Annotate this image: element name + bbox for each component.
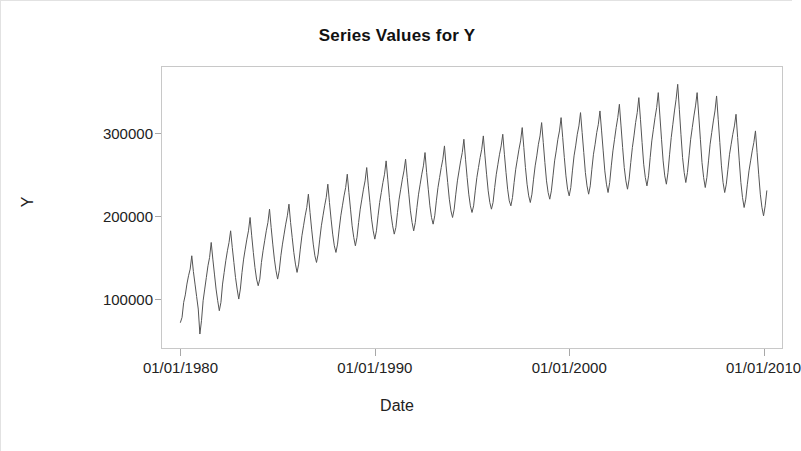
x-tick-mark [764,349,765,356]
chart-title: Series Values for Y [1,26,793,46]
x-tick-label: 01/01/1990 [337,359,412,376]
x-axis-title: Date [1,397,793,415]
y-axis-title: Y [19,197,37,208]
plot-area [161,66,783,349]
x-axis-tick-labels: 01/01/198001/01/199001/01/200001/01/2010 [161,359,783,381]
x-tick-mark [569,349,570,356]
y-tick-label: 200000 [103,207,153,224]
y-tick-label: 300000 [103,124,153,141]
y-axis-tick-labels: 100000200000300000 [61,66,153,349]
x-tick-label: 01/01/2000 [532,359,607,376]
y-tick-label: 100000 [103,291,153,308]
x-tick-mark [180,349,181,356]
x-tick-label: 01/01/1980 [143,359,218,376]
x-tick-mark [375,349,376,356]
x-axis-tick-marks [161,349,783,356]
x-tick-label: 01/01/2010 [726,359,801,376]
series-line-y [161,66,783,349]
